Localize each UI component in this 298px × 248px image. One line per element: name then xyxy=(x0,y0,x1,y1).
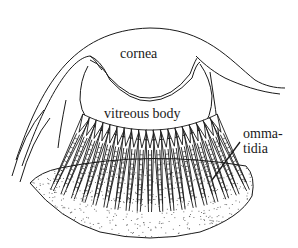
label-cornea: cornea xyxy=(120,46,157,61)
eye-illustration xyxy=(0,0,298,248)
label-ommatidia-line2: tidia xyxy=(243,141,268,156)
cornea-lens xyxy=(90,56,200,101)
label-ommatidia-line1: omma- xyxy=(243,126,283,141)
compound-eye-diagram: cornea vitreous body omma- tidia xyxy=(0,0,298,248)
label-vitreous-body: vitreous body xyxy=(104,106,181,121)
